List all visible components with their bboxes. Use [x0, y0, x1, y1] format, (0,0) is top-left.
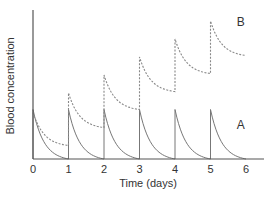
chart-svg: 0123456 Time (days) Blood concentration … — [0, 0, 274, 200]
series-layer — [33, 21, 246, 159]
series-b-label: B — [237, 15, 245, 29]
x-tick-label: 6 — [243, 163, 249, 175]
x-tick-label: 2 — [101, 163, 107, 175]
x-tick-label: 4 — [172, 163, 178, 175]
x-tick-label: 1 — [65, 163, 71, 175]
series-a-label: A — [237, 118, 245, 132]
chart-container: 0123456 Time (days) Blood concentration … — [0, 0, 274, 200]
x-tick-label: 5 — [207, 163, 213, 175]
x-axis-label: Time (days) — [119, 177, 177, 189]
x-tick-label: 0 — [30, 163, 36, 175]
x-tick-labels: 0123456 — [30, 163, 249, 175]
series-a-line — [33, 110, 246, 160]
x-tick-label: 3 — [136, 163, 142, 175]
y-axis-label: Blood concentration — [4, 37, 16, 134]
